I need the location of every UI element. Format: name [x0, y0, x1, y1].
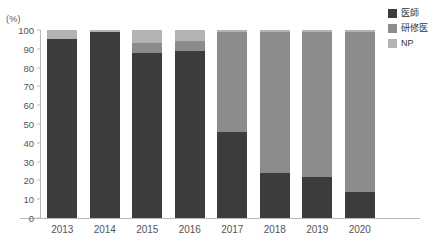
x-axis-tick-2019: 2019: [294, 224, 340, 235]
y-axis-tick-0: 0: [0, 213, 34, 224]
y-axis-tick-40: 40: [0, 137, 34, 148]
bar-segment-研修医-2020: [345, 32, 375, 192]
bar-2016[interactable]: [175, 30, 205, 218]
bar-segment-医師-2018: [260, 173, 290, 218]
chart-container: (%) 1009080706050403020100 2013201420152…: [0, 0, 441, 248]
bar-segment-医師-2017: [217, 132, 247, 218]
bar-segment-医師-2016: [175, 51, 205, 218]
x-axis-tick-2018: 2018: [252, 224, 298, 235]
bar-2017[interactable]: [217, 30, 247, 218]
x-axis-tick-2016: 2016: [167, 224, 213, 235]
x-axis-tick-2015: 2015: [124, 224, 170, 235]
bar-segment-研修医-2016: [175, 41, 205, 50]
bar-segment-研修医-2018: [260, 32, 290, 173]
legend-item-label: 医師: [401, 9, 419, 18]
bar-segment-研修医-2017: [217, 32, 247, 132]
legend-item-NP[interactable]: NP: [388, 38, 438, 49]
y-axis-tick-90: 90: [0, 43, 34, 54]
y-axis-tick-70: 70: [0, 81, 34, 92]
bar-2015[interactable]: [132, 30, 162, 218]
bar-2013[interactable]: [47, 30, 77, 218]
bar-2018[interactable]: [260, 30, 290, 218]
bar-2014[interactable]: [90, 30, 120, 218]
y-axis-tick-10: 10: [0, 194, 34, 205]
bar-segment-医師-2019: [302, 177, 332, 218]
y-axis-tick-80: 80: [0, 62, 34, 73]
legend-item-label: 研修医: [401, 24, 428, 33]
bar-segment-NP-2016: [175, 30, 205, 41]
x-axis-tick-2017: 2017: [209, 224, 255, 235]
x-axis-tick-2013: 2013: [39, 224, 85, 235]
bar-segment-医師-2013: [47, 39, 77, 218]
chart-legend: 医師研修医NP: [388, 8, 438, 53]
y-axis-tick-60: 60: [0, 100, 34, 111]
legend-item-研修医[interactable]: 研修医: [388, 23, 438, 34]
y-axis-tick-100: 100: [0, 25, 34, 36]
bar-2020[interactable]: [345, 30, 375, 218]
plot-area: [41, 30, 381, 218]
x-axis-tick-2020: 2020: [337, 224, 383, 235]
bar-segment-医師-2014: [90, 32, 120, 218]
legend-swatch-icon: [388, 9, 397, 18]
bar-segment-研修医-2015: [132, 43, 162, 52]
legend-item-医師[interactable]: 医師: [388, 8, 438, 19]
legend-swatch-icon: [388, 39, 397, 48]
y-axis-tick-20: 20: [0, 175, 34, 186]
y-axis-tick-50: 50: [0, 119, 34, 130]
bar-segment-NP-2013: [47, 30, 77, 39]
bar-segment-医師-2020: [345, 192, 375, 218]
x-axis-tick-2014: 2014: [82, 224, 128, 235]
bar-segment-医師-2015: [132, 53, 162, 218]
x-axis-line: [20, 218, 420, 219]
bar-segment-NP-2015: [132, 30, 162, 43]
y-axis-tick-30: 30: [0, 156, 34, 167]
y-axis-unit-label: (%): [6, 14, 21, 24]
bar-2019[interactable]: [302, 30, 332, 218]
legend-item-label: NP: [401, 39, 414, 48]
bar-segment-研修医-2019: [302, 32, 332, 177]
legend-swatch-icon: [388, 24, 397, 33]
